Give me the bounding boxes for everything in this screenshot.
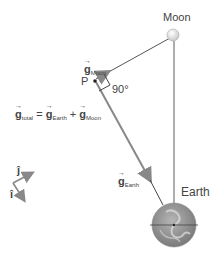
moon-label: Moon (163, 12, 191, 23)
equals-sign: = (36, 108, 42, 120)
p-to-earth-line (150, 180, 163, 205)
unit-i-arrow (13, 183, 24, 200)
unit-i-label: î (10, 189, 13, 200)
earth-label: Earth (181, 186, 210, 198)
unit-j-arrow (13, 173, 32, 183)
g-moon-symbol: g (84, 64, 91, 75)
g-total-subscript: total (22, 115, 33, 121)
angle-label: 90° (112, 84, 129, 95)
point-p (93, 79, 97, 83)
g-moon-term-subscript: Moon (86, 115, 101, 121)
g-moon-term-symbol: g (79, 109, 86, 120)
g-earth-subscript: Earth (125, 182, 139, 188)
g-earth-arrow (96, 82, 150, 180)
g-moon-subscript: Moon (91, 70, 106, 76)
plus-sign: + (70, 108, 76, 120)
g-earth-symbol: g (118, 176, 125, 187)
g-earth-term-symbol: g (46, 109, 53, 120)
diagram-canvas (0, 0, 212, 256)
point-p-label: P (81, 76, 88, 87)
g-earth-term-subscript: Earth (52, 115, 66, 121)
equation: gtotal = gEarth + gMoon (15, 109, 101, 121)
earth-icon (150, 203, 198, 247)
unit-j-label: ĵ (17, 165, 20, 176)
moon-icon (167, 29, 179, 41)
g-total-symbol: g (15, 109, 22, 120)
g-earth-label: gEarth (118, 176, 139, 188)
